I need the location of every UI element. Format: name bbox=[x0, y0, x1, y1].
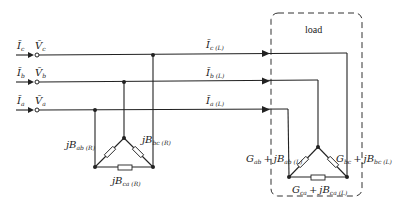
resistor-ca-r bbox=[118, 165, 132, 170]
svg-text:jBab (R): jBab (R) bbox=[64, 139, 96, 151]
resistor-ca-l bbox=[311, 175, 325, 180]
svg-text:Īa: Īa bbox=[16, 95, 25, 107]
load-boundary bbox=[271, 13, 362, 196]
svg-text:V̄a: V̄a bbox=[35, 95, 46, 107]
resistor-ab-r bbox=[104, 146, 115, 157]
svg-text:Gab+jBab (L): Gab+jBab (L) bbox=[246, 153, 303, 165]
load-current-labels: Īc (L) Īb (L) Īa (L) bbox=[205, 39, 225, 107]
svg-text:Īb (L): Īb (L) bbox=[205, 67, 225, 79]
load-delta: Gab+jBab (L) Gbc+jBbc (L) Gca+jBca (L) bbox=[246, 145, 392, 196]
arrow-icon bbox=[262, 106, 270, 113]
svg-text:jBca (R): jBca (R) bbox=[110, 175, 141, 187]
svg-text:V̄c: V̄c bbox=[35, 40, 46, 52]
load-label: load bbox=[305, 24, 322, 35]
source-labels: Īc V̄c Īb V̄b Īa V̄a bbox=[16, 40, 46, 107]
arrow-icon bbox=[262, 50, 270, 57]
resistor-bc-r bbox=[132, 146, 143, 157]
svg-text:Gbc+jBbc (L): Gbc+jBbc (L) bbox=[336, 153, 392, 165]
circuit-diagram: load Īc V̄c Īb V̄b Īa V̄a Īc (L) Īb (L) bbox=[0, 0, 403, 208]
svg-text:Īa (L): Īa (L) bbox=[205, 95, 225, 107]
svg-text:Īc (L): Īc (L) bbox=[205, 39, 225, 51]
svg-text:Gca+jBca (L): Gca+jBca (L) bbox=[292, 184, 348, 196]
arrow-icon bbox=[262, 78, 270, 85]
svg-text:jBbc (R): jBbc (R) bbox=[140, 134, 171, 146]
svg-text:Īb: Īb bbox=[16, 67, 25, 79]
svg-text:Īc: Īc bbox=[16, 40, 25, 52]
svg-text:V̄b: V̄b bbox=[35, 67, 46, 79]
compensator-delta: jBab (R) jBbc (R) jBca (R) bbox=[64, 53, 171, 187]
phase-b-line bbox=[16, 78, 318, 148]
